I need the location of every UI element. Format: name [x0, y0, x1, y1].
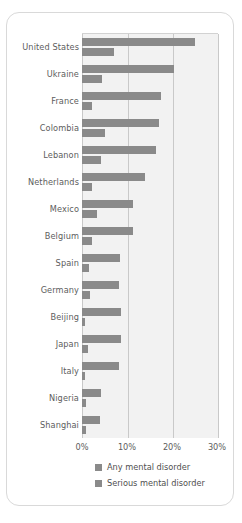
bar-any: [82, 362, 119, 370]
bar-any: [82, 335, 121, 343]
bar-any: [82, 281, 119, 289]
x-tick-label: 10%: [118, 442, 136, 452]
bar-group: [7, 389, 235, 407]
bar-serious: [82, 129, 105, 137]
bar-any: [82, 254, 120, 262]
bar-group: [7, 119, 235, 137]
bar-group: [7, 335, 235, 353]
bar-group: [7, 38, 235, 56]
bar-serious: [82, 345, 88, 353]
bar-group: [7, 146, 235, 164]
bar-serious: [82, 426, 86, 434]
chart-legend: Any mental disorderSerious mental disord…: [95, 460, 205, 492]
bar-any: [82, 389, 101, 397]
x-tick-label: 30%: [208, 442, 226, 452]
bar-chart: United StatesUkraineFranceColombiaLebano…: [7, 13, 235, 507]
bar-serious: [82, 291, 90, 299]
x-tick-label: 0%: [76, 442, 89, 452]
bar-serious: [82, 102, 92, 110]
chart-card: United StatesUkraineFranceColombiaLebano…: [6, 12, 234, 506]
bar-group: [7, 308, 235, 326]
bar-group: [7, 254, 235, 272]
legend-swatch-icon: [95, 464, 102, 471]
bar-serious: [82, 237, 92, 245]
bar-any: [82, 38, 195, 46]
bar-serious: [82, 48, 114, 56]
legend-label: Serious mental disorder: [107, 478, 205, 488]
bar-serious: [82, 399, 86, 407]
bar-group: [7, 227, 235, 245]
x-tick-label: 20%: [163, 442, 181, 452]
bar-any: [82, 119, 159, 127]
bar-group: [7, 200, 235, 218]
bar-serious: [82, 264, 89, 272]
bar-any: [82, 416, 100, 424]
bar-any: [82, 92, 161, 100]
bar-any: [82, 65, 174, 73]
bar-serious: [82, 210, 97, 218]
bar-any: [82, 308, 121, 316]
bar-serious: [82, 318, 85, 326]
bar-group: [7, 416, 235, 434]
bar-any: [82, 173, 145, 181]
legend-label: Any mental disorder: [107, 462, 190, 472]
bar-any: [82, 146, 156, 154]
bar-serious: [82, 372, 85, 380]
bar-serious: [82, 156, 101, 164]
bar-group: [7, 65, 235, 83]
legend-item: Serious mental disorder: [95, 476, 205, 490]
bar-any: [82, 227, 133, 235]
legend-swatch-icon: [95, 480, 102, 487]
bar-group: [7, 281, 235, 299]
bar-any: [82, 200, 133, 208]
bar-serious: [82, 183, 92, 191]
bar-group: [7, 92, 235, 110]
legend-item: Any mental disorder: [95, 460, 205, 474]
bar-group: [7, 362, 235, 380]
bar-serious: [82, 75, 102, 83]
bar-group: [7, 173, 235, 191]
